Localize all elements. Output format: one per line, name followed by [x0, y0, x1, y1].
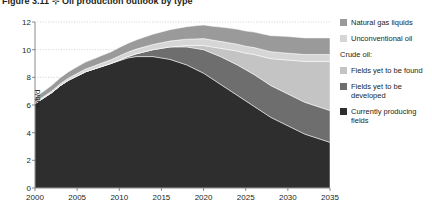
- x-tick-label: 2015: [153, 193, 171, 202]
- legend-group-crude-oil: Fields yet to be foundFields yet to be d…: [340, 66, 432, 125]
- stacked-area-chart: [35, 22, 330, 188]
- legend-item-yet_to_be_found[interactable]: Fields yet to be found: [340, 66, 432, 75]
- x-tick-label: 2030: [279, 193, 297, 202]
- legend-item-label: Fields yet to be found: [351, 66, 432, 75]
- x-tick-label: 2005: [68, 193, 86, 202]
- y-tick-label: 12: [7, 18, 31, 27]
- legend-item-unconventional[interactable]: Unconventional oil: [340, 34, 432, 43]
- legend-group-label: Crude oil:: [340, 50, 432, 59]
- x-tick-label: 2035: [321, 193, 339, 202]
- legend-group-top: Natural gas liquidsUnconventional oil: [340, 18, 432, 43]
- legend-item-label: Unconventional oil: [351, 34, 432, 43]
- legend-swatch-icon: [340, 83, 347, 90]
- y-tick-label: 6: [7, 101, 31, 110]
- y-tick-label: 10: [7, 45, 31, 54]
- y-axis-label: mb/d: [33, 69, 42, 129]
- x-tick-label: 2000: [26, 193, 44, 202]
- y-tick-label: 0: [7, 184, 31, 193]
- legend-item-label: Natural gas liquids: [351, 18, 432, 27]
- legend-item-label: Fields yet to be developed: [351, 82, 432, 100]
- legend-swatch-icon: [340, 35, 347, 42]
- legend-swatch-icon: [340, 67, 347, 74]
- plot-area: mb/d 024681012 2000200520102015202020252…: [35, 22, 330, 188]
- x-tick-label: 2020: [195, 193, 213, 202]
- chart-legend: Natural gas liquidsUnconventional oil Cr…: [340, 18, 432, 132]
- figure-title: Figure 3.11 ⊹ Oil production outlook by …: [0, 0, 432, 7]
- y-tick-label: 2: [7, 156, 31, 165]
- y-tick-label: 8: [7, 73, 31, 82]
- figure-title-text: Figure 3.11 ⊹ Oil production outlook by …: [0, 0, 432, 6]
- figure-container: Figure 3.11 ⊹ Oil production outlook by …: [0, 0, 432, 204]
- x-tick-label: 2010: [110, 193, 128, 202]
- legend-item-ngl[interactable]: Natural gas liquids: [340, 18, 432, 27]
- legend-item-yet_to_be_developed[interactable]: Fields yet to be developed: [340, 82, 432, 100]
- legend-item-label: Currently producing fields: [351, 107, 432, 125]
- legend-swatch-icon: [340, 108, 347, 115]
- x-tick-label: 2025: [237, 193, 255, 202]
- legend-item-currently_producing[interactable]: Currently producing fields: [340, 107, 432, 125]
- legend-swatch-icon: [340, 19, 347, 26]
- y-tick-label: 4: [7, 128, 31, 137]
